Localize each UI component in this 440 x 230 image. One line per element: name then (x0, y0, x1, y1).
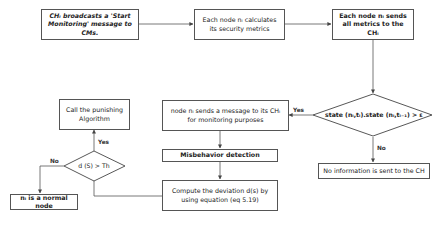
send-all-metrics-box: Each node nᵢ sends all metrics to the CH… (332, 9, 414, 40)
broadcast-text: CHᵢ broadcasts a 'Start Monitoring' mess… (45, 12, 135, 38)
calculate-metrics-box: Each node nᵢ calculates its security met… (194, 9, 285, 40)
send-message-text: node nᵢ sends a message to its CHᵢ for m… (166, 107, 285, 124)
calculate-text: Each node nᵢ calculates its security met… (198, 16, 281, 33)
threshold-decision-text: d (S) > Th (78, 162, 109, 169)
no-information-box: No information is sent to the CH (318, 163, 430, 179)
normal-node-box: nᵢ is a normal node (10, 194, 78, 210)
broadcast-start-monitoring-box: CHᵢ broadcasts a 'Start Monitoring' mess… (41, 9, 139, 40)
state-decision-text: state (nᵢ,tᵢ).state (nᵢ,tᵢ₋₁) > ε (325, 111, 423, 118)
threshold-decision-diamond: d (S) > Th (69, 162, 119, 169)
state-no-label: No (377, 145, 386, 151)
state-decision-diamond: state (nᵢ,tᵢ).state (nᵢ,tᵢ₋₁) > ε (325, 111, 421, 118)
no-info-text: No information is sent to the CH (323, 167, 424, 176)
threshold-yes-label: Yes (98, 139, 109, 145)
send-all-text: Each node nᵢ sends all metrics to the CH… (336, 12, 410, 38)
compute-deviation-box: Compute the deviation d(s) by using equa… (162, 180, 278, 211)
normal-node-text: nᵢ is a normal node (14, 194, 74, 211)
punishing-algorithm-box: Call the punishing Algorithm (59, 99, 130, 130)
threshold-no-label: No (50, 158, 59, 164)
misbehavior-text: Misbehavior detection (180, 151, 259, 160)
state-yes-label: Yes (293, 107, 304, 113)
send-message-box: node nᵢ sends a message to its CHᵢ for m… (162, 100, 289, 131)
misbehavior-detection-box: Misbehavior detection (162, 149, 278, 162)
punish-text: Call the punishing Algorithm (63, 106, 126, 123)
compute-text: Compute the deviation d(s) by using equa… (166, 187, 274, 204)
